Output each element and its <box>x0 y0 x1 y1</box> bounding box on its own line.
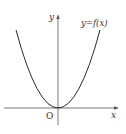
y-axis-label: y <box>48 12 55 22</box>
origin-label: O <box>46 111 53 121</box>
curve-label: y=f(x) <box>80 18 108 28</box>
function-graph: y y=f(x) O x <box>0 0 126 134</box>
x-axis-label: x <box>111 110 116 120</box>
y-axis-arrow-icon <box>56 14 59 19</box>
